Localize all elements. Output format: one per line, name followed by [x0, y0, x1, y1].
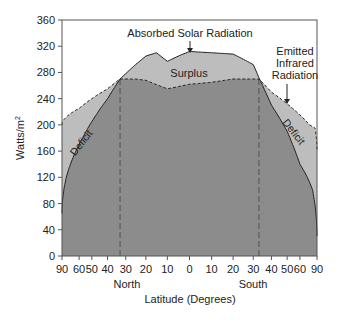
- energy-balance-chart: 04080120160200240280320360 9060504030201…: [0, 0, 339, 321]
- x-tick-label: 50: [86, 263, 98, 275]
- y-tick-label: 280: [37, 66, 55, 78]
- x-axis-label: Latitude (Degrees): [144, 293, 235, 305]
- y-tick-label: 0: [49, 250, 55, 262]
- y-tick-label: 120: [37, 171, 55, 183]
- y-tick-label: 40: [43, 224, 55, 236]
- x-axis: 90605040302010010203040506090: [56, 256, 323, 275]
- x-tick-label: 40: [101, 263, 113, 275]
- y-axis: 04080120160200240280320360: [37, 14, 62, 262]
- x-tick-label: 60: [294, 263, 306, 275]
- x-tick-label: 30: [120, 263, 132, 275]
- absorbed-solar-label: Absorbed Solar Radiation: [127, 27, 252, 39]
- x-tick-label: 40: [265, 263, 277, 275]
- x-tick-label: 50: [281, 263, 293, 275]
- emitted-ir-label-2: Infrared: [276, 57, 314, 69]
- x-tick-label: 10: [161, 263, 173, 275]
- x-tick-label: 20: [227, 263, 239, 275]
- x-tick-label: 10: [206, 263, 218, 275]
- y-tick-label: 200: [37, 119, 55, 131]
- y-tick-label: 80: [43, 198, 55, 210]
- y-tick-label: 360: [37, 14, 55, 26]
- x-tick-label: 90: [311, 263, 323, 275]
- emitted-ir-label-1: Emitted: [276, 45, 313, 57]
- y-axis-label: Watts/m2: [14, 116, 26, 160]
- x-tick-label: 90: [56, 263, 68, 275]
- chart-areas: [62, 52, 317, 257]
- x-tick-label: 30: [247, 263, 259, 275]
- y-tick-label: 240: [37, 93, 55, 105]
- north-label: North: [114, 278, 141, 290]
- x-tick-label: 20: [140, 263, 152, 275]
- x-tick-label: 60: [73, 263, 85, 275]
- surplus-label: Surplus: [170, 67, 208, 79]
- south-label: South: [239, 278, 268, 290]
- x-tick-label: 0: [186, 263, 192, 275]
- y-tick-label: 160: [37, 145, 55, 157]
- emitted-ir-label-3: Radiation: [272, 69, 318, 81]
- y-tick-label: 320: [37, 40, 55, 52]
